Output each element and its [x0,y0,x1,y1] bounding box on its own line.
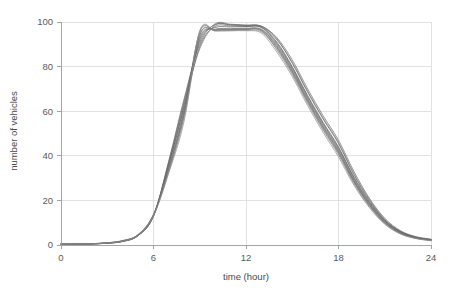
x-axis-title: time (hour) [223,271,269,282]
y-tick-label: 0 [48,239,53,250]
x-tick-label: 12 [241,252,252,263]
x-tick-label: 24 [426,252,437,263]
y-axis-title: number of vehicles [8,91,19,171]
x-tick-label: 6 [151,252,156,263]
chart-background [0,0,455,297]
chart-figure: 02040608010006121824 time (hour) number … [0,0,455,297]
x-tick-label: 0 [58,252,63,263]
y-tick-label: 80 [42,61,53,72]
y-tick-label: 100 [37,16,53,27]
x-tick-label: 18 [333,252,344,263]
y-tick-label: 20 [42,195,53,206]
y-tick-label: 60 [42,106,53,117]
chart-svg: 02040608010006121824 time (hour) number … [0,0,455,297]
y-tick-label: 40 [42,150,53,161]
